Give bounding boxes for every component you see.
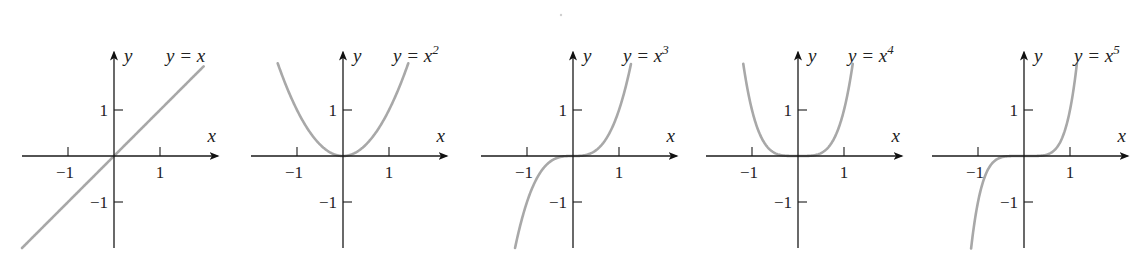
x-tick-label: 1	[840, 163, 849, 182]
equation-label: y = x3	[621, 42, 669, 66]
y-axis-label: y	[1032, 45, 1043, 66]
power-functions-figure: −111−1xyy = x−111−1xyy = x2−111−1xyy = x…	[0, 0, 1134, 269]
x-tick-label: −1	[515, 163, 533, 182]
x-tick-label: −1	[285, 163, 303, 182]
y-tick-label: 1	[329, 101, 338, 120]
plot-panel-2: −111−1xyy = x2	[251, 42, 447, 249]
function-curve	[22, 66, 204, 248]
y-axis-label: y	[122, 45, 133, 66]
y-axis-label: y	[806, 45, 817, 66]
x-tick-label: 1	[385, 163, 394, 182]
equation-label: y = x5	[1072, 42, 1120, 66]
y-tick-label: 1	[1010, 101, 1019, 120]
x-axis-label: x	[666, 125, 676, 146]
x-axis-label: x	[436, 125, 446, 146]
plot-panel-3: −111−1xyy = x3	[481, 42, 677, 249]
plot-panel-4: −111−1xyy = x4	[706, 42, 902, 249]
y-tick-label: −1	[90, 193, 108, 212]
x-tick-label: −1	[56, 163, 74, 182]
stray-mark	[560, 14, 562, 16]
x-tick-label: 1	[615, 163, 624, 182]
x-tick-label: 1	[1066, 163, 1075, 182]
y-tick-label: −1	[774, 193, 792, 212]
equation-label: y = x4	[846, 42, 894, 66]
y-axis-label: y	[351, 45, 362, 66]
x-tick-label: 1	[156, 163, 165, 182]
equation-label: y = x	[164, 45, 206, 66]
panels-container: −111−1xyy = x−111−1xyy = x2−111−1xyy = x…	[22, 42, 1128, 249]
plot-panel-5: −111−1xyy = x5	[932, 42, 1128, 249]
y-tick-label: −1	[549, 193, 567, 212]
equation-label: y = x2	[391, 42, 439, 66]
x-tick-label: −1	[740, 163, 758, 182]
x-axis-label: x	[891, 125, 901, 146]
y-tick-label: −1	[319, 193, 337, 212]
y-axis-label: y	[581, 45, 592, 66]
plot-panel-1: −111−1xyy = x	[22, 45, 218, 249]
x-axis-label: x	[1117, 125, 1127, 146]
x-tick-label: −1	[966, 163, 984, 182]
y-tick-label: 1	[784, 101, 793, 120]
y-tick-label: −1	[1000, 193, 1018, 212]
x-axis-label: x	[207, 125, 217, 146]
y-tick-label: 1	[559, 101, 568, 120]
y-tick-label: 1	[100, 101, 109, 120]
